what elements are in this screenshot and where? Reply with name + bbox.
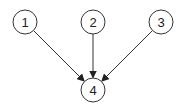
directed-graph: 1234 — [0, 0, 186, 107]
edge-1-to-4 — [33, 30, 84, 81]
node-4: 4 — [81, 78, 105, 102]
node-label: 4 — [89, 83, 96, 98]
node-label: 3 — [157, 15, 164, 30]
edges — [33, 30, 152, 81]
node-label: 2 — [89, 15, 96, 30]
node-3: 3 — [149, 10, 173, 34]
node-2: 2 — [81, 10, 105, 34]
node-1: 1 — [13, 10, 37, 34]
node-label: 1 — [21, 15, 28, 30]
edge-3-to-4 — [102, 30, 153, 81]
